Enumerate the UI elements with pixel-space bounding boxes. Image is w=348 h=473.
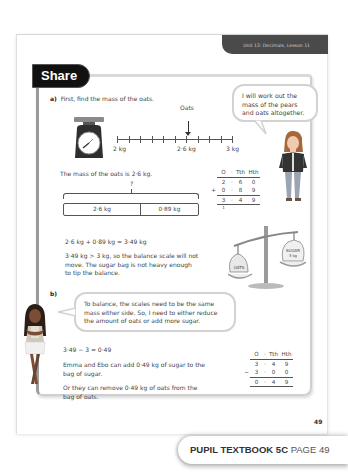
header-tenths: Tth: [234, 168, 247, 177]
column-subtraction: O · Tth Hth 3·49 − 3·00 0·49: [243, 350, 293, 387]
header-hundredths: Hth: [247, 168, 260, 177]
calc-row: − 3·00: [243, 368, 293, 377]
option-remove-oats: Or they can remove 0·49 kg of oats from …: [63, 384, 197, 401]
oats-pointer-arrow-icon: [188, 121, 189, 134]
speech-bubble-tail-icon: [58, 306, 76, 318]
carry-digit: 1: [217, 205, 230, 210]
instruction-text: First, find the mass of the oats.: [61, 95, 154, 102]
unit-lesson-tab: Unit 12: Decimals, Lesson 11: [222, 35, 328, 54]
part-b-label: b): [50, 290, 57, 299]
option-add-sugar: Emma and Ebo can add 0·49 kg of sugar to…: [63, 361, 205, 378]
header-ones: O: [217, 168, 230, 177]
textbook-page-tab: PUPIL TEXTBOOK 5C PAGE 49: [178, 436, 348, 464]
number-line-mid-label: 2·6 kg: [177, 145, 196, 154]
girl-character-icon: [276, 130, 310, 202]
bubble-line: and oats altogether.: [242, 109, 308, 118]
conclusion-text: 3·49 kg > 3 kg, so the balance scale wil…: [65, 252, 198, 278]
svg-text:OATS: OATS: [234, 265, 245, 270]
child-character-icon: [20, 302, 50, 388]
number-line-start-label: 2 kg: [113, 145, 126, 154]
book-page: PAGE 49: [291, 444, 330, 455]
bar-part-pears: 0·89 kg: [141, 204, 198, 215]
subtraction-equation: 3·49 − 3 = 0·49: [63, 346, 111, 355]
svg-text:SUGAR: SUGAR: [286, 248, 300, 253]
bar-model-brace: [63, 193, 199, 199]
page-number: 49: [314, 418, 322, 425]
speech-bubble-girl: I will work out the mass of the pears an…: [232, 84, 318, 122]
calc-row: 3·49: [243, 360, 293, 369]
kitchen-scale-icon: [72, 116, 106, 160]
calc-row: 0·49: [243, 378, 293, 387]
calc-row: 2·60: [210, 178, 260, 187]
bubble-line: mass of the pears: [242, 101, 308, 110]
column-addition: O · Tth Hth 2·60 + 0·89 3·49 1: [210, 168, 260, 210]
calc-row: + 0·89: [210, 186, 260, 195]
bar-model: 2·6 kg 0·89 kg: [63, 203, 199, 216]
mass-statement: The mass of the oats is 2·6 kg.: [60, 170, 152, 179]
book-title: PUPIL TEXTBOOK 5C: [190, 444, 288, 455]
calc-row: 3·49: [210, 196, 260, 205]
addition-equation: 2·6 kg + 0·89 kg = 3·49 kg: [65, 238, 147, 247]
part-a-label: a): [50, 95, 57, 102]
balance-scale-icon: OATS SUGAR 3 kg: [228, 224, 306, 290]
oats-pointer-label: Oats: [180, 104, 194, 113]
svg-text:3 kg: 3 kg: [289, 254, 297, 258]
speech-bubble-child: To balance, the scales need to be the sa…: [74, 292, 236, 332]
bar-part-oats: 2·6 kg: [64, 204, 141, 215]
share-section-title: Share: [32, 64, 90, 88]
speech-bubble-tail-icon: [252, 120, 268, 136]
number-line-end-label: 3 kg: [226, 145, 239, 154]
part-a-instruction: a) First, find the mass of the oats.: [50, 95, 154, 104]
bar-model-total-label: ?: [130, 180, 133, 189]
bubble-line: I will work out the: [242, 92, 308, 101]
number-line: [117, 136, 233, 144]
